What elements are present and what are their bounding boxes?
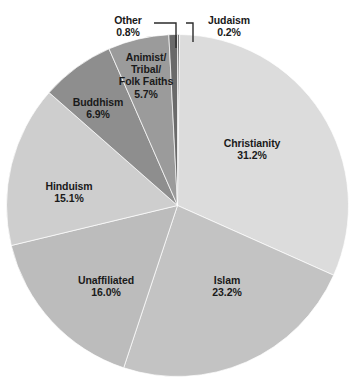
pie-chart: Other 0.8% Judaism 0.2% Animist/ Tribal/…	[0, 0, 351, 378]
pie-slices-group	[7, 34, 349, 376]
pie-chart-canvas	[0, 0, 351, 378]
